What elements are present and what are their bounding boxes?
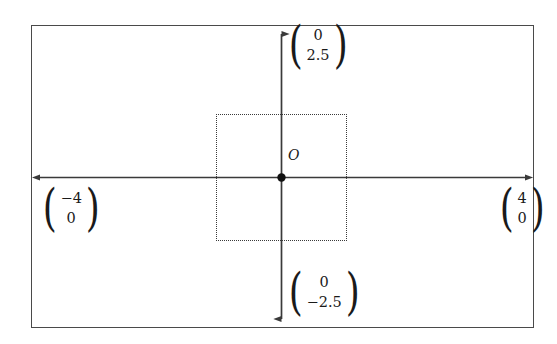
up-vector-y: 2.5 bbox=[307, 46, 330, 65]
down-vector-y: −2.5 bbox=[307, 293, 342, 312]
up-vector-x: 0 bbox=[313, 26, 322, 45]
up-vector-entries: 0 2.5 bbox=[305, 26, 332, 64]
origin-label: O bbox=[288, 148, 299, 162]
left-vector-close-paren: ) bbox=[86, 188, 100, 229]
right-vector-y: 0 bbox=[518, 209, 527, 228]
right-vector-open-paren: ( bbox=[500, 188, 514, 229]
up-vector-open-paren: ( bbox=[289, 25, 303, 66]
right-vector: ( 4 0 ) bbox=[497, 188, 547, 229]
down-vector: ( 0 −2.5 ) bbox=[286, 272, 362, 313]
down-vector-entries: 0 −2.5 bbox=[305, 273, 344, 311]
left-vector-entries: −4 0 bbox=[59, 189, 84, 227]
down-vector-open-paren: ( bbox=[289, 272, 303, 313]
left-vector: ( −4 0 ) bbox=[40, 188, 102, 229]
up-vector: ( 0 2.5 ) bbox=[286, 25, 350, 66]
down-vector-close-paren: ) bbox=[345, 272, 359, 313]
left-vector-y: 0 bbox=[67, 209, 76, 228]
left-vector-open-paren: ( bbox=[43, 188, 57, 229]
right-vector-entries: 4 0 bbox=[516, 189, 529, 227]
down-vector-x: 0 bbox=[320, 273, 329, 292]
up-vector-close-paren: ) bbox=[333, 25, 347, 66]
origin-dot bbox=[277, 173, 285, 181]
left-vector-x: −4 bbox=[61, 189, 82, 208]
right-vector-x: 4 bbox=[518, 189, 527, 208]
axes-overlay bbox=[0, 0, 557, 344]
right-vector-close-paren: ) bbox=[530, 188, 544, 229]
coordinate-axes-figure: O ( 0 2.5 ) ( 0 −2.5 ) ( −4 0 ) ( 4 0 ) bbox=[0, 0, 557, 344]
